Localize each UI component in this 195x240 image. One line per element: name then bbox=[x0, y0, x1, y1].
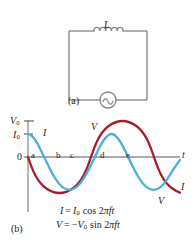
equation-current: I=I0cos 2πft bbox=[60, 206, 114, 217]
inductor-ac-circuit-figure: L (a) V0 I0 0 t I V I V a b c d e I=I0co… bbox=[0, 0, 195, 240]
eq1-lhs: I bbox=[60, 205, 63, 216]
voltage-curve-label-right: V bbox=[158, 196, 164, 206]
eq2-equals: = bbox=[64, 219, 70, 230]
ac-source-icon bbox=[100, 92, 116, 108]
y-axis-label-v0: V0 bbox=[10, 116, 20, 127]
x-axis-label: t bbox=[182, 150, 185, 160]
i0-subscript: 0 bbox=[17, 133, 20, 140]
voltage-curve-label-top: V bbox=[91, 122, 97, 132]
origin-label: 0 bbox=[17, 152, 22, 162]
equation-voltage: V=−V0sin 2πft bbox=[56, 220, 120, 231]
eq1-amplitude-sub: 0 bbox=[77, 209, 80, 216]
axis-point-a: a bbox=[31, 151, 35, 160]
eq2-amplitude-sub: 0 bbox=[84, 223, 87, 230]
eq2-lhs: V bbox=[56, 219, 62, 230]
axis-point-c: c bbox=[70, 151, 74, 160]
axis-point-d: d bbox=[100, 151, 105, 160]
eq1-equals: = bbox=[65, 205, 71, 216]
axis-point-e: e bbox=[126, 151, 130, 160]
eq1-amplitude: I bbox=[73, 205, 76, 216]
eq1-ft: ft bbox=[109, 205, 115, 216]
current-curve-label-left: I bbox=[43, 128, 46, 138]
eq2-ft: ft bbox=[114, 219, 120, 230]
panel-b-caption: (b) bbox=[11, 224, 23, 234]
y-axis-label-i0: I0 bbox=[13, 130, 20, 141]
current-curve-label-right: I bbox=[181, 182, 184, 192]
current-curve bbox=[28, 134, 180, 190]
inductor-label: L bbox=[104, 20, 110, 30]
i0-symbol: I bbox=[13, 129, 16, 140]
eq2-trig: sin 2 bbox=[90, 219, 109, 230]
panel-a-caption: (a) bbox=[68, 96, 79, 106]
eq1-trig: cos 2 bbox=[83, 205, 104, 216]
v0-subscript: 0 bbox=[16, 119, 19, 126]
circuit-diagram bbox=[0, 0, 195, 112]
axis-point-b: b bbox=[56, 151, 61, 160]
eq2-amplitude: V bbox=[77, 219, 83, 230]
